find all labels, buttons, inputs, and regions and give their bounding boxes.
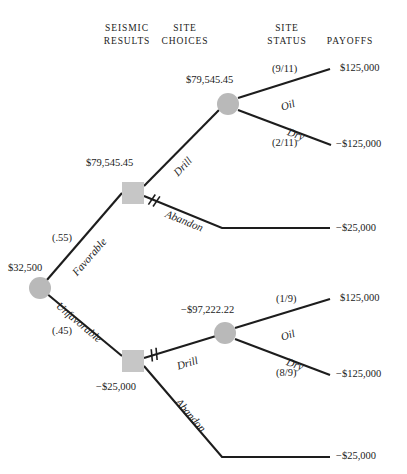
column-header-site-choices: SITE CHOICES [130,22,240,48]
favorable-decision[interactable] [122,182,144,204]
prob-dry-bottom: (8/9) [276,367,296,378]
payoff-abandon-bottom: −$25,000 [336,450,376,461]
payoff-oil-bottom: $125,000 [340,292,379,303]
payoff-dry-top: −$125,000 [336,138,381,149]
unfavorable-drill-chance[interactable] [214,322,236,344]
unfavorable-drill-chance-value: −$97,222.22 [181,304,234,315]
prob-favorable: (.55) [52,232,72,243]
decision-tree-figure: SEISMIC RESULTSSITE CHOICESSITE STATUSPA… [0,0,407,474]
prob-oil-top: (9/11) [272,63,297,74]
prob-oil-bottom: (1/9) [276,293,296,304]
favorable-drill-chance[interactable] [217,93,239,115]
edge-unfavorable-abandon [144,366,330,457]
favorable-decision-value: $79,545.45 [86,157,133,168]
favorable-drill-chance-value: $79,545.45 [186,74,233,85]
payoff-oil-top: $125,000 [340,62,379,73]
root-chance-value: $32,500 [8,262,42,273]
payoff-abandon-top: −$25,000 [336,222,376,233]
prob-unfavorable: (.45) [52,325,72,336]
unfavorable-decision[interactable] [122,350,144,372]
root-chance[interactable] [29,277,51,299]
edge-unfavorable-drill [144,336,216,358]
column-header-payoffs: PAYOFFS [300,35,400,48]
prune-marks-layer [148,194,159,362]
payoff-dry-bottom: −$125,000 [336,368,381,379]
unfavorable-decision-value: −$25,000 [96,381,136,392]
prob-dry-top: (2/11) [272,137,297,148]
